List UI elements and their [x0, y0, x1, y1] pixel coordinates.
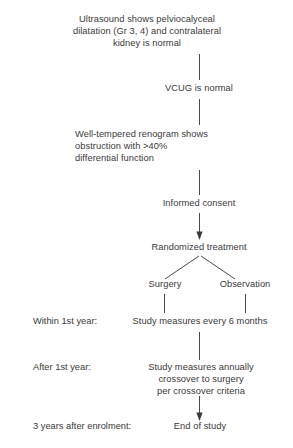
- node-renogram: Well-tempered renogram shows obstruction…: [75, 128, 293, 165]
- connector-observation-to-measures: [245, 294, 246, 313]
- connector-surgery-to-measures: [164, 294, 165, 313]
- node-informed-consent: Informed consent: [129, 197, 269, 209]
- node-surgery: Surgery: [131, 278, 199, 290]
- connector-vcug-to-renogram: [199, 99, 200, 125]
- connector-renogram-to-consent: [199, 170, 200, 195]
- node-observation: Observation: [205, 278, 285, 290]
- stage-label-after-1st-year: After 1st year:: [33, 361, 91, 373]
- cropped-header-artifact: [0, 0, 293, 9]
- flowchart-canvas: Ultrasound shows pelviocalyceal dilatati…: [0, 0, 293, 448]
- stage-label-within-1st-year: Within 1st year:: [33, 315, 97, 327]
- arrow-consent-to-randomized: [193, 213, 206, 241]
- connector-measures-to-annual: [199, 332, 200, 360]
- node-vcug: VCUG is normal: [129, 82, 269, 94]
- branch-lines-randomized: [140, 256, 260, 280]
- stage-label-3-years-after-enrolment: 3 years after enrolment:: [33, 420, 131, 432]
- arrow-annual-to-end: [193, 396, 206, 422]
- connector-ultrasound-to-vcug: [199, 54, 200, 80]
- node-measures-every-6-months: Study measures every 6 months: [114, 315, 286, 327]
- node-randomized-treatment: Randomized treatment: [124, 241, 274, 253]
- node-end-of-study: End of study: [150, 420, 250, 432]
- node-measures-annually: Study measures annually crossover to sur…: [127, 361, 275, 398]
- node-ultrasound: Ultrasound shows pelviocalyceal dilatati…: [48, 13, 246, 50]
